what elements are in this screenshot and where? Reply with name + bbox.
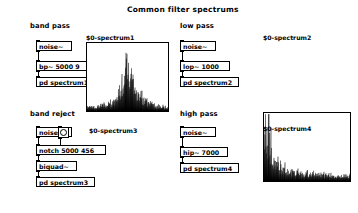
spectrum-plot	[87, 43, 168, 111]
inlet-nub	[36, 160, 40, 162]
pd-patch-canvas[interactable]: Common filter spectrums band pass noise~…	[0, 0, 358, 213]
inlet-nub	[180, 76, 184, 78]
subpatch-box-spectrum4[interactable]: pd spectrum4	[180, 163, 239, 173]
section-label-band-reject: band reject	[30, 110, 75, 118]
inlet-nub	[180, 146, 184, 148]
spectrum-trace	[87, 53, 168, 111]
object-box-noise-low-pass[interactable]: noise~	[180, 41, 216, 51]
message-cord	[60, 138, 61, 145]
object-box-noise-band-pass[interactable]: noise~	[36, 41, 72, 51]
section-label-high-pass: high pass	[180, 110, 218, 118]
graph-label-spectrum1: $0-spectrum1	[86, 34, 134, 41]
object-box-hip-high-pass[interactable]: hip~ 7000	[180, 147, 228, 157]
object-box-lop-low-pass[interactable]: lop~ 1000	[180, 61, 230, 71]
inlet-nub	[180, 40, 184, 42]
page-title: Common filter spectrums	[127, 5, 239, 14]
inlet-nub	[36, 176, 40, 178]
inlet-nub	[36, 126, 40, 128]
graph-canvas-spectrum2[interactable]	[263, 112, 351, 182]
inlet-nub	[36, 144, 40, 146]
object-box-noise-high-pass[interactable]: noise~	[180, 127, 216, 137]
object-label: bp~ 5000 9	[39, 62, 80, 71]
object-label: pd spectrum2	[183, 78, 232, 87]
bang-circle-icon	[60, 129, 67, 136]
subpatch-box-spectrum3[interactable]: pd spectrum3	[36, 177, 95, 187]
object-label: notch 5000 456	[39, 146, 94, 155]
object-label: noise~	[183, 42, 207, 51]
object-label: lop~ 1000	[183, 62, 219, 71]
inlet-nub	[180, 162, 184, 164]
inlet-nub	[180, 60, 184, 62]
object-label: noise~	[183, 128, 207, 137]
object-label: hip~ 7000	[183, 148, 219, 157]
inlet-nub	[36, 76, 40, 78]
object-box-biquad[interactable]: biquad~	[36, 161, 77, 171]
object-label: biquad~	[39, 162, 69, 171]
inlet-nub	[36, 40, 40, 42]
spectrum-plot	[264, 113, 350, 181]
graph-label-spectrum3: $0-spectrum3	[89, 127, 137, 134]
message-box-notch[interactable]: notch 5000 456	[36, 145, 106, 155]
inlet-nub	[36, 60, 40, 62]
section-label-low-pass: low pass	[180, 22, 214, 30]
object-label: pd spectrum1	[39, 78, 88, 87]
object-label: pd spectrum4	[183, 164, 232, 173]
inlet-nub	[58, 126, 62, 128]
graph-label-spectrum2: $0-spectrum2	[263, 34, 311, 41]
object-box-bp-band-pass[interactable]: bp~ 5000 9	[36, 61, 89, 71]
graph-label-spectrum4: $0-spectrum4	[263, 125, 311, 132]
section-label-band-pass: band pass	[30, 22, 70, 30]
inlet-nub	[180, 126, 184, 128]
object-label: noise~	[39, 42, 63, 51]
bang-button-band-reject[interactable]	[58, 127, 69, 138]
object-label: pd spectrum3	[39, 178, 88, 187]
graph-canvas-spectrum1[interactable]	[86, 42, 169, 112]
subpatch-box-spectrum2[interactable]: pd spectrum2	[180, 77, 239, 87]
